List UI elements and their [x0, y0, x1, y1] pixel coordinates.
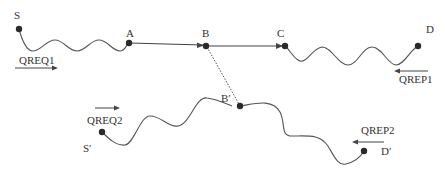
node-d	[415, 43, 421, 49]
node-a	[126, 40, 132, 46]
label-s-prime: S′	[83, 142, 92, 154]
label-a: A	[126, 27, 134, 39]
label-b: B	[202, 27, 209, 39]
label-c: C	[277, 27, 284, 39]
label-d-prime: D′	[381, 145, 391, 157]
node-s-prime	[99, 129, 105, 135]
path-b-prime-to-d-prime	[240, 103, 364, 164]
link-a-to-b	[129, 43, 203, 45]
label-qrep2: QREP2	[361, 124, 395, 136]
arrow-left-icon	[394, 69, 400, 74]
arrow-right-icon	[114, 106, 120, 111]
node-c	[282, 43, 288, 49]
label-b-prime: B′	[221, 92, 231, 104]
node-d-prime	[361, 148, 367, 154]
path-diagram: S A B C D B′ S′ D′ QREQ1 QREP1 QREQ2 QRE…	[0, 0, 445, 176]
label-qreq1: QREQ1	[19, 54, 54, 66]
node-s	[16, 26, 22, 32]
path-c-to-d	[285, 46, 418, 65]
arrow-left-icon	[352, 140, 358, 145]
label-qreq2: QREQ2	[87, 114, 122, 126]
node-b	[203, 43, 209, 49]
node-b-prime	[237, 103, 243, 109]
arrow-right-icon	[52, 66, 58, 71]
path-s-to-a	[19, 29, 129, 51]
label-s: S	[14, 9, 20, 21]
label-qrep1: QREP1	[399, 73, 433, 85]
label-d: D	[426, 23, 434, 35]
